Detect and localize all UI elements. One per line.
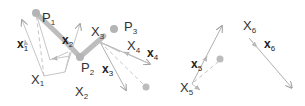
label-X3: X3 bbox=[91, 24, 105, 41]
label-P2: P2 bbox=[81, 60, 95, 77]
label-P1: P1 bbox=[42, 10, 56, 27]
point-x3-target bbox=[143, 84, 150, 91]
point-p3 bbox=[110, 25, 118, 33]
label-X5: X5 bbox=[180, 80, 194, 97]
label-x1: x1 bbox=[17, 37, 29, 53]
label-P3: P3 bbox=[124, 19, 138, 36]
vector-diagram: P1 P2 P3 X1 X2 X3 X4 X5 X6 x1 x2 x3 x4 x… bbox=[0, 0, 305, 106]
point-p1 bbox=[32, 9, 40, 17]
label-x2: x2 bbox=[62, 33, 74, 49]
label-X1: X1 bbox=[31, 72, 45, 88]
label-X2: X2 bbox=[75, 84, 89, 101]
label-X6: X6 bbox=[243, 18, 257, 35]
label-x4: x4 bbox=[147, 46, 159, 62]
label-x5: x5 bbox=[191, 57, 203, 73]
label-x6: x6 bbox=[264, 37, 276, 53]
label-X4: X4 bbox=[127, 38, 141, 55]
point-x5-target bbox=[217, 56, 224, 63]
